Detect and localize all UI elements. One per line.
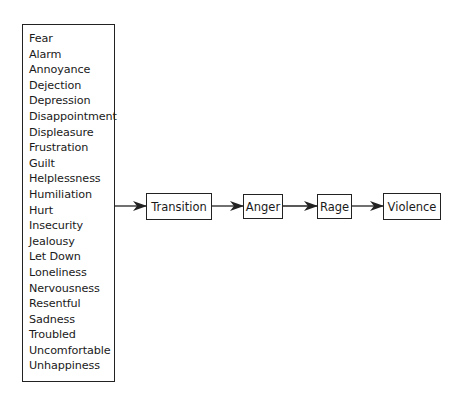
node-transition: Transition bbox=[146, 193, 212, 220]
node-violence: Violence bbox=[383, 193, 441, 220]
node-rage: Rage bbox=[317, 194, 352, 219]
node-anger: Anger bbox=[243, 194, 283, 219]
